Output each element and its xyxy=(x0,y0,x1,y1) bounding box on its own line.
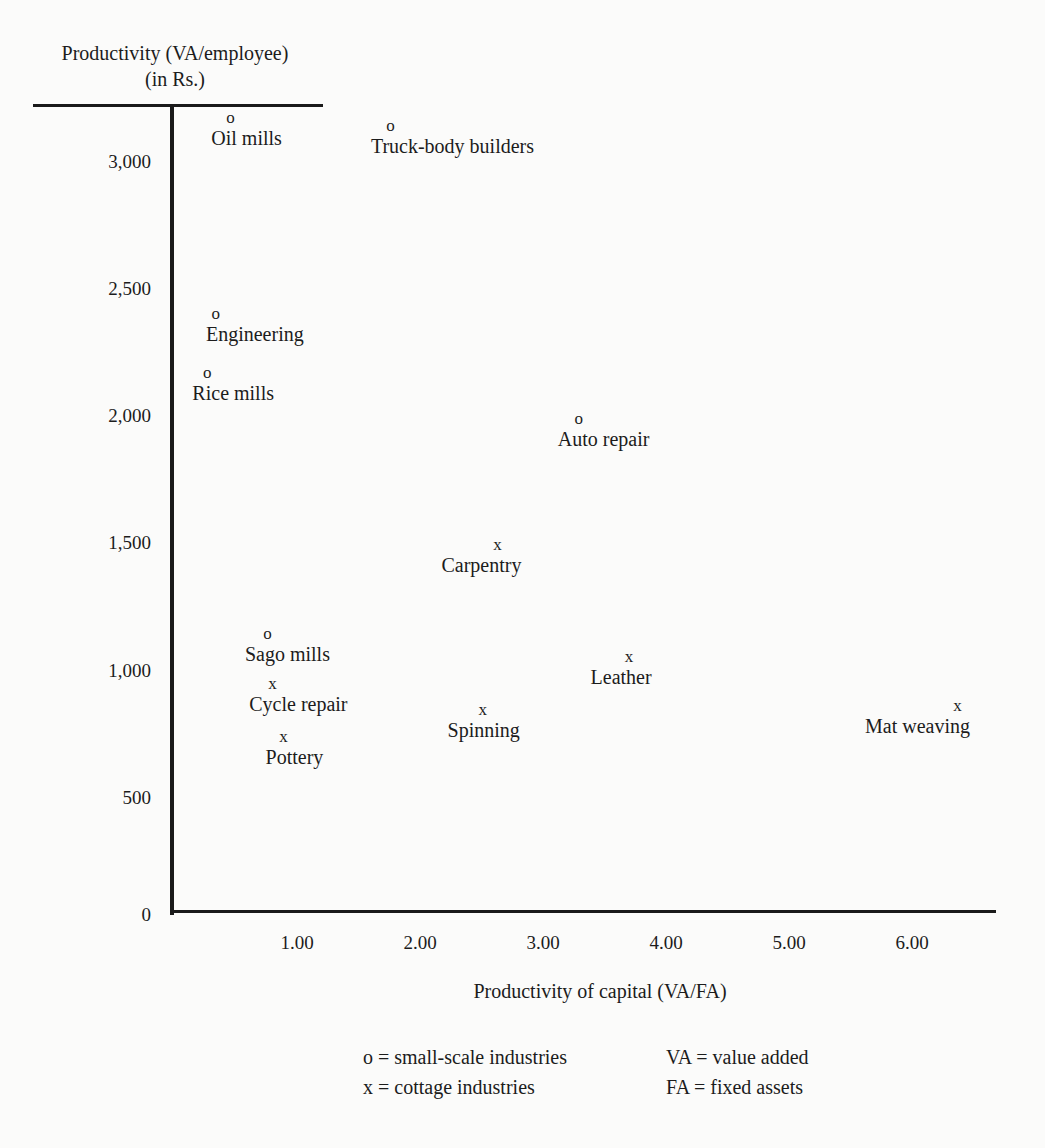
y-tick-label: 500 xyxy=(71,787,151,809)
circle-marker-icon: o xyxy=(206,305,226,323)
legend-text-small-scale: small-scale industries xyxy=(394,1046,567,1068)
legend-entry-cottage: x = cottage industries xyxy=(363,1072,567,1102)
cross-marker-icon: x xyxy=(473,701,493,719)
scatter-chart: Productivity (VA/employee) (in Rs.) 0500… xyxy=(0,0,1045,1148)
y-tick-label: 2,500 xyxy=(71,278,151,300)
point-label: Sago mills xyxy=(187,643,387,665)
circle-marker-icon: o xyxy=(197,364,217,382)
x-tick-label: 6.00 xyxy=(872,932,952,954)
circle-marker-icon: o xyxy=(380,117,400,135)
y-axis-top-rule xyxy=(33,104,323,107)
y-axis-title: Productivity (VA/employee) (in Rs.) xyxy=(30,40,320,92)
x-axis-line xyxy=(170,910,996,913)
legend-symbol-x: x xyxy=(363,1076,373,1098)
x-axis-title: Productivity of capital (VA/FA) xyxy=(400,980,800,1003)
cross-marker-icon: x xyxy=(619,648,639,666)
circle-marker-icon: o xyxy=(221,109,241,127)
y-axis-title-line-2: (in Rs.) xyxy=(30,66,320,92)
legend-entry-small-scale: o = small-scale industries xyxy=(363,1042,567,1072)
cross-marker-icon: x xyxy=(262,675,282,693)
x-tick-label: 4.00 xyxy=(626,932,706,954)
y-tick-label: 0 xyxy=(71,904,151,926)
y-axis-title-line-1: Productivity (VA/employee) xyxy=(30,40,320,66)
cross-marker-icon: x xyxy=(948,697,968,715)
abbr-va-text: value added xyxy=(713,1046,809,1068)
point-label: Mat weaving xyxy=(818,715,1018,737)
abbreviation-legend: VA = value added FA = fixed assets xyxy=(666,1042,809,1102)
abbr-entry-fa: FA = fixed assets xyxy=(666,1072,809,1102)
point-label: Oil mills xyxy=(147,127,347,149)
abbr-fa: FA xyxy=(666,1076,689,1098)
point-label: Spinning xyxy=(384,719,584,741)
y-tick-label: 2,000 xyxy=(71,405,151,427)
point-label: Cycle repair xyxy=(198,693,398,715)
legend-symbol-o: o xyxy=(363,1046,373,1068)
legend-text-cottage: cottage industries xyxy=(394,1076,535,1098)
point-label: Carpentry xyxy=(381,554,581,576)
x-tick-label: 2.00 xyxy=(380,932,460,954)
x-tick-label: 3.00 xyxy=(503,932,583,954)
abbr-fa-text: fixed assets xyxy=(710,1076,803,1098)
abbr-va: VA xyxy=(666,1046,691,1068)
point-label: Engineering xyxy=(155,323,355,345)
point-label: Rice mills xyxy=(133,382,333,404)
abbr-entry-va: VA = value added xyxy=(666,1042,809,1072)
point-label: Leather xyxy=(521,666,721,688)
y-axis-line xyxy=(170,105,174,915)
point-label: Pottery xyxy=(194,746,394,768)
y-tick-label: 1,500 xyxy=(71,532,151,554)
legend: o = small-scale industries x = cottage i… xyxy=(363,1042,567,1102)
circle-marker-icon: o xyxy=(257,625,277,643)
point-label: Auto repair xyxy=(504,428,704,450)
y-tick-label: 1,000 xyxy=(71,660,151,682)
y-tick-label: 3,000 xyxy=(71,151,151,173)
circle-marker-icon: o xyxy=(569,410,589,428)
point-label: Truck-body builders xyxy=(352,135,552,157)
cross-marker-icon: x xyxy=(273,728,293,746)
x-tick-label: 5.00 xyxy=(749,932,829,954)
x-tick-label: 1.00 xyxy=(257,932,337,954)
cross-marker-icon: x xyxy=(487,536,507,554)
